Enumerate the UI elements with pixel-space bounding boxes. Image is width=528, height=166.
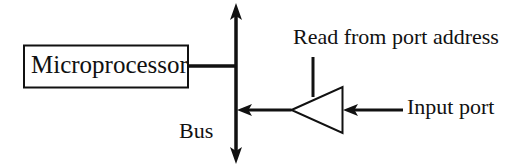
input-port-label: Input port [407,96,494,118]
bus-line-group [230,3,242,164]
input-port-arrow-group [343,104,403,116]
microprocessor-label: Microprocessor [31,52,188,77]
diagram-canvas: Microprocessor Read from port address In… [0,0,528,166]
bus-label: Bus [179,120,213,142]
tristate-buffer-triangle [292,87,343,133]
read-from-port-address-label: Read from port address [293,26,499,48]
buffer-output-arrow-group [237,104,292,116]
